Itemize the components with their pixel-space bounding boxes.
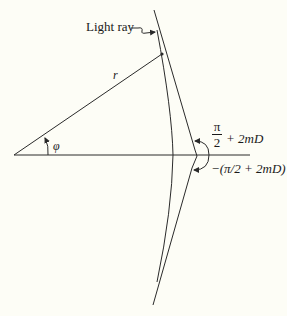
light-ray-label: Light ray: [86, 19, 134, 35]
light-ray-pointer: [131, 28, 155, 33]
upper-angle-fraction: π 2: [212, 120, 222, 149]
phi-angle-arc: [45, 138, 48, 155]
radius-label: r: [113, 68, 118, 83]
upper-angle-arc: [195, 141, 209, 155]
fraction-denominator: 2: [212, 136, 222, 149]
radius-line: [14, 54, 162, 155]
light-deflection-diagram: Light ray r φ π 2 + 2mD −(π/2 + 2mD): [0, 0, 287, 316]
upper-angle-label: + 2mD: [226, 131, 263, 147]
fraction-numerator: π: [212, 120, 222, 133]
asymptote-lines: [153, 10, 197, 305]
lower-angle-label: −(π/2 + 2mD): [211, 161, 286, 177]
phi-label: φ: [53, 139, 60, 154]
diagram-lines: [0, 0, 287, 316]
